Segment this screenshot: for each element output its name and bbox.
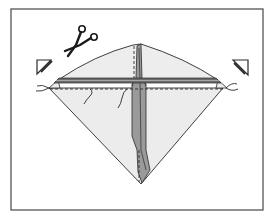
kite-diagram — [0, 0, 270, 217]
cross-spar — [54, 78, 221, 83]
